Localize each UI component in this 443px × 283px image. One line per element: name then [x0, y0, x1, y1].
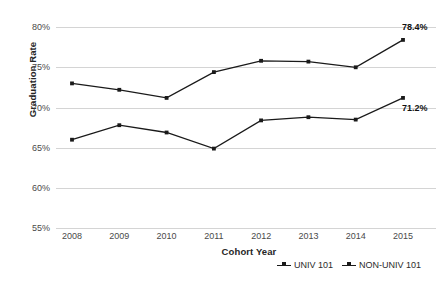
- data-point-marker: [354, 65, 358, 69]
- legend-item-label: NON-UNIV 101: [359, 260, 421, 270]
- data-point-marker: [117, 88, 121, 92]
- data-point-marker: [70, 138, 74, 142]
- data-point-marker: [259, 119, 263, 123]
- legend-item[interactable]: UNIV 101: [277, 260, 333, 270]
- data-point-marker: [401, 96, 405, 100]
- data-point-marker: [165, 131, 169, 135]
- data-point-marker: [259, 59, 263, 63]
- plot-area: [0, 0, 443, 283]
- legend-marker-icon: [342, 261, 356, 269]
- chart-legend: UNIV 101NON-UNIV 101: [255, 260, 443, 270]
- data-point-label: 71.2%: [402, 103, 428, 113]
- data-point-marker: [165, 96, 169, 100]
- series-line: [72, 98, 403, 149]
- data-point-marker: [307, 60, 311, 64]
- legend-item[interactable]: NON-UNIV 101: [342, 260, 421, 270]
- data-point-marker: [70, 82, 74, 86]
- data-point-marker: [354, 118, 358, 122]
- legend-item-label: UNIV 101: [294, 260, 333, 270]
- data-point-marker: [307, 115, 311, 119]
- legend-marker-icon: [277, 261, 291, 269]
- data-point-marker: [117, 123, 121, 127]
- data-point-label: 78.4%: [402, 22, 428, 32]
- data-point-marker: [212, 70, 216, 74]
- data-point-marker: [401, 38, 405, 42]
- series-line: [72, 40, 403, 98]
- graduation-rate-line-chart: Graduation Rate Cohort Year 55%60%65%70%…: [0, 0, 443, 283]
- data-point-marker: [212, 147, 216, 151]
